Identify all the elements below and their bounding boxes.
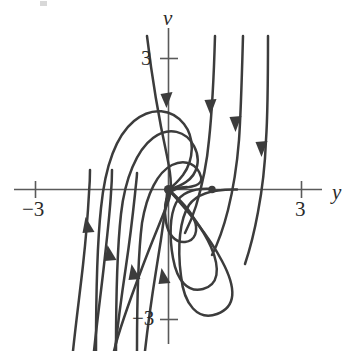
- phase-portrait-figure: v y 3 −3 −3 3: [0, 0, 359, 351]
- trajectory-lower-right-loop-outer: [169, 189, 238, 315]
- trajectory-incoming-left-of-v-axis: [114, 36, 171, 351]
- v-axis-tick-label-positive-3: 3: [141, 48, 152, 69]
- y-axis-label: y: [332, 182, 341, 203]
- arrowhead-down-on-descending-right-1: [205, 99, 217, 115]
- v-axis-tick-label-negative-3: −3: [132, 308, 154, 329]
- y-axis-tick-label-negative-3: −3: [22, 199, 44, 220]
- v-axis-label: v: [163, 8, 172, 29]
- trajectory-descending-right-3: [245, 36, 268, 264]
- trajectory-descending-right-2: [212, 36, 243, 255]
- phase-plane-plot: [0, 0, 359, 351]
- y-axis-tick-label-positive-3: 3: [295, 199, 306, 220]
- equilibrium-point-origin-saddle: [164, 185, 173, 194]
- equilibrium-point-second: [208, 186, 215, 193]
- arrowhead-down-on-incoming-curve: [161, 92, 173, 108]
- trajectory-ascending-left-1: [73, 170, 90, 351]
